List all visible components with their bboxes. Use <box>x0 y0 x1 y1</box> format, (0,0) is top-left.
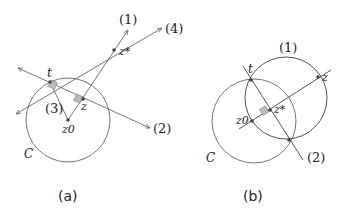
point-z-star <box>268 108 272 112</box>
label-segment-3: (3) <box>45 101 63 116</box>
label-circle-c: C <box>24 147 33 161</box>
label-t: t <box>248 62 253 76</box>
label-line-1: (1) <box>119 12 137 27</box>
label-z0: z0 <box>235 114 249 127</box>
caption-a: (a) <box>58 188 78 204</box>
label-z0: z0 <box>61 123 75 136</box>
panel-b: (1) (2) t z z* z0 C (b) <box>206 40 331 204</box>
label-line-2: (2) <box>307 150 325 165</box>
circle-c <box>212 79 296 163</box>
label-line-4: (4) <box>165 21 183 36</box>
point-t <box>48 80 52 84</box>
label-t: t <box>47 66 52 80</box>
point-z <box>316 75 320 79</box>
panel-a: (1) (4) (2) (3) t z z* z0 C (a) <box>16 12 183 204</box>
right-angle-marker-z-star <box>259 106 269 116</box>
point-intersection <box>287 138 291 142</box>
point-t <box>249 78 253 82</box>
label-circle-c: C <box>206 151 215 165</box>
label-z-star: z* <box>118 45 131 58</box>
label-z: z <box>321 71 328 84</box>
point-z0 <box>66 118 70 122</box>
line-4 <box>16 28 162 114</box>
point-z-star <box>112 48 116 52</box>
diagram-canvas: (1) (4) (2) (3) t z z* z0 C (a) (1) (2) … <box>0 0 343 215</box>
line-1 <box>68 30 128 120</box>
label-z-star: z* <box>273 103 286 116</box>
caption-b: (b) <box>243 188 263 204</box>
circle-1 <box>245 57 327 139</box>
label-z: z <box>80 100 87 113</box>
label-line-2: (2) <box>153 121 171 136</box>
label-circle-1: (1) <box>279 40 297 55</box>
point-z0 <box>250 119 254 123</box>
